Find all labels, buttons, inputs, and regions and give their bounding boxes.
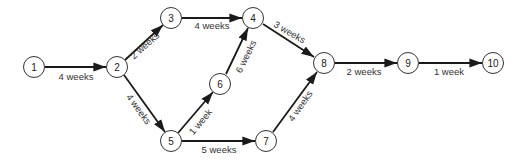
node-6: 6	[210, 74, 231, 95]
node-10: 10	[483, 53, 504, 74]
edge-label: 4 weeks	[59, 71, 94, 82]
edge-4-8: 3 weeks	[263, 18, 314, 57]
node-label: 9	[405, 58, 411, 69]
node-4: 4	[243, 8, 264, 29]
edge-label: 4 weeks	[195, 20, 230, 31]
node-9: 9	[398, 53, 419, 74]
edge-5-6: 1 week	[178, 92, 214, 137]
node-3: 3	[161, 8, 182, 29]
edge-3-4: 4 weeks	[182, 18, 242, 31]
edge-8-9: 2 weeks	[335, 63, 397, 77]
node-7: 7	[256, 131, 277, 152]
edge-label: 1 week	[186, 106, 214, 136]
node-2: 2	[107, 57, 128, 78]
edge-1-2: 4 weeks	[45, 67, 106, 82]
edge-label: 5 weeks	[202, 144, 237, 155]
node-label: 7	[263, 136, 269, 147]
node-label: 6	[217, 79, 223, 90]
node-1: 1	[24, 57, 45, 78]
edge-label: 2 weeks	[128, 29, 161, 61]
edge-7-8: 4 weeks	[273, 72, 317, 132]
edge-6-4: 6 weeks	[226, 28, 259, 75]
network-diagram: 4 weeks 2 weeks 4 weeks 4 weeks 1 week 6…	[0, 0, 526, 162]
node-label: 2	[114, 62, 120, 73]
edge-label: 2 weeks	[347, 66, 382, 77]
node-label: 3	[168, 13, 174, 24]
edge-2-5: 4 weeks	[124, 75, 165, 132]
node-label: 5	[168, 136, 174, 147]
node-8: 8	[314, 53, 335, 74]
node-label: 8	[321, 58, 327, 69]
edge-label: 1 week	[434, 66, 464, 77]
edge-2-3: 2 weeks	[125, 25, 163, 61]
node-5: 5	[161, 131, 182, 152]
edge-5-7: 5 weeks	[182, 141, 255, 155]
node-label: 1	[31, 62, 37, 73]
node-label: 10	[487, 58, 499, 69]
node-label: 4	[250, 13, 256, 24]
edge-9-10: 1 week	[419, 63, 482, 77]
edge-label: 6 weeks	[233, 38, 258, 74]
